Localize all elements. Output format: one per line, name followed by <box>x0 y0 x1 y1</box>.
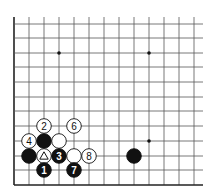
star-point-icon <box>57 51 61 55</box>
move-number: 2 <box>41 121 47 132</box>
white-stone-8: 8 <box>82 149 97 164</box>
star-point-icon <box>147 51 151 55</box>
move-number: 3 <box>56 151 62 162</box>
move-number: 4 <box>26 136 32 147</box>
black-stone-icon <box>127 149 142 164</box>
move-number: 6 <box>71 121 77 132</box>
stones-layer: 2643817 <box>22 119 142 178</box>
black-stone <box>37 134 52 149</box>
black-stone <box>22 149 37 164</box>
star-point-icon <box>147 139 151 143</box>
black-stone-7: 7 <box>67 163 82 178</box>
black-stone-3: 3 <box>52 149 67 164</box>
white-stone-6: 6 <box>67 119 82 134</box>
black-stone <box>127 149 142 164</box>
black-stone-icon <box>22 149 37 164</box>
black-stone-1: 1 <box>37 163 52 178</box>
white-stone-icon <box>67 149 82 164</box>
white-stone-2: 2 <box>37 119 52 134</box>
white-stone-4: 4 <box>22 134 37 149</box>
go-board-diagram: 2643817 <box>0 0 214 195</box>
white-stone <box>52 134 67 149</box>
move-number: 8 <box>86 151 92 162</box>
move-number: 7 <box>71 165 77 176</box>
move-number: 1 <box>41 165 47 176</box>
black-stone-icon <box>37 134 52 149</box>
white-stone <box>37 149 52 164</box>
white-stone-icon <box>52 134 67 149</box>
white-stone <box>67 149 82 164</box>
